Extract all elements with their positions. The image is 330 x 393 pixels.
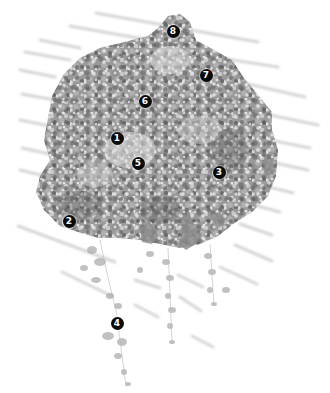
callout-marker-5: 5 xyxy=(132,157,145,170)
callout-marker-4: 4 xyxy=(111,317,124,330)
vine-stems xyxy=(100,240,214,386)
callout-marker-1: 1 xyxy=(111,132,124,145)
callout-marker-6: 6 xyxy=(139,95,152,108)
callout-marker-2: 2 xyxy=(63,215,76,228)
callout-marker-8: 8 xyxy=(167,25,180,38)
callout-marker-7: 7 xyxy=(200,69,213,82)
foliage-mass xyxy=(36,14,278,248)
plant-illustration: 1 2 3 4 5 6 7 8 xyxy=(0,0,330,393)
callout-marker-3: 3 xyxy=(213,166,226,179)
illustration-svg xyxy=(0,0,330,393)
